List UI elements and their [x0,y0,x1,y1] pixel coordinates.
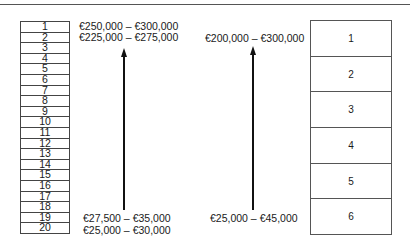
right-bottom-range: €25,000 – €45,000 [210,213,298,224]
right-scale-cell: 5 [311,163,392,199]
right-top-range: €200,000 – €300,000 [205,33,304,44]
right-scale-cell: 1 [311,21,392,57]
left-arrow-shaft [123,56,125,210]
right-arrow-shaft [252,54,254,210]
left-bottom-range-1: €27,500 – €35,000 [83,213,171,224]
top-rule [0,4,410,5]
right-band-scale-table: 123456 [310,20,392,235]
left-scale-cell: 20 [21,223,70,234]
left-bottom-range-2: €25,000 – €30,000 [83,225,171,236]
left-top-range-2: €225,000 – €275,000 [79,32,178,43]
right-scale-cell: 2 [311,56,392,92]
right-scale-cell: 4 [311,128,392,164]
left-grade-scale-table: 1234567891011121314151617181920 [20,21,70,234]
right-scale-cell: 6 [311,199,392,235]
right-scale-cell: 3 [311,92,392,128]
